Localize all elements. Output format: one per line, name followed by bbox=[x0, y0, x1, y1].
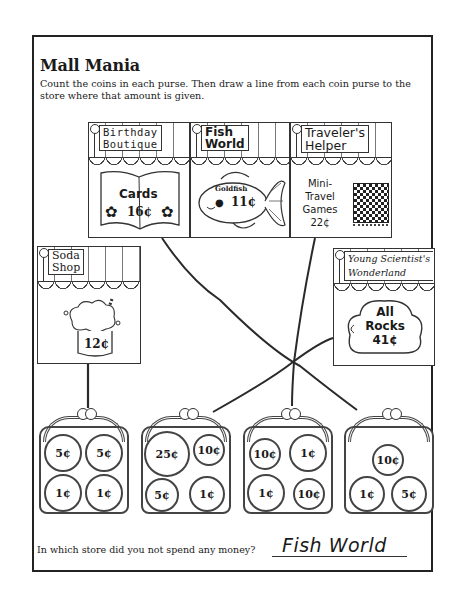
purse-clasp bbox=[289, 408, 301, 420]
coin: 10¢ bbox=[372, 444, 404, 476]
coin: 5¢ bbox=[85, 434, 123, 472]
coin-purse-1[interactable]: 5¢ 5¢ 1¢ 1¢ bbox=[39, 404, 129, 516]
coin: 25¢ bbox=[144, 431, 190, 477]
coin: 5¢ bbox=[44, 434, 82, 472]
answer-text[interactable]: Fish World bbox=[282, 534, 387, 556]
coin: 1¢ bbox=[189, 476, 225, 512]
coin: 1¢ bbox=[85, 474, 123, 512]
purse-clasp bbox=[390, 408, 402, 420]
answer-line bbox=[272, 556, 407, 557]
coin: 5¢ bbox=[145, 478, 179, 512]
coin: 10¢ bbox=[249, 438, 281, 470]
coin: 5¢ bbox=[391, 476, 427, 512]
coin: 1¢ bbox=[44, 474, 82, 512]
line-purse3-to-travelers-helper bbox=[292, 238, 315, 406]
purse-clasp bbox=[187, 408, 199, 420]
coin-purse-4[interactable]: 10¢ 1¢ 5¢ bbox=[344, 404, 434, 516]
coin: 10¢ bbox=[293, 478, 325, 510]
purse-clasp bbox=[85, 408, 97, 420]
coin: 1¢ bbox=[349, 476, 385, 512]
question-text: In which store did you not spend any mon… bbox=[37, 544, 255, 555]
coin-purse-3[interactable]: 10¢ 1¢ 1¢ 10¢ bbox=[243, 404, 333, 516]
coin-purse-2[interactable]: 25¢ 10¢ 5¢ 1¢ bbox=[141, 404, 231, 516]
coin: 10¢ bbox=[193, 434, 225, 466]
coin: 1¢ bbox=[247, 474, 285, 512]
coin: 1¢ bbox=[289, 434, 327, 472]
